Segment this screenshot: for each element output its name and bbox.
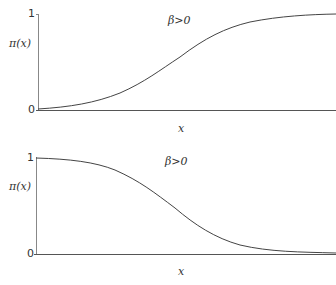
bottom-x-label: x bbox=[178, 265, 184, 278]
chart-canvas bbox=[0, 0, 336, 285]
top-x-label: x bbox=[178, 122, 184, 135]
bottom-tick-0: 0 bbox=[27, 247, 34, 260]
bottom-tick-1: 1 bbox=[27, 151, 34, 164]
top-y-label: π(x) bbox=[9, 37, 31, 50]
top-annotation: β>0 bbox=[168, 14, 191, 27]
top-curve bbox=[38, 14, 336, 109]
top-tick-1: 1 bbox=[28, 7, 35, 20]
top-tick-0: 0 bbox=[28, 103, 35, 116]
bottom-curve bbox=[36, 158, 336, 253]
bottom-y-label: π(x) bbox=[9, 180, 31, 193]
bottom-annotation: β>0 bbox=[165, 155, 188, 168]
